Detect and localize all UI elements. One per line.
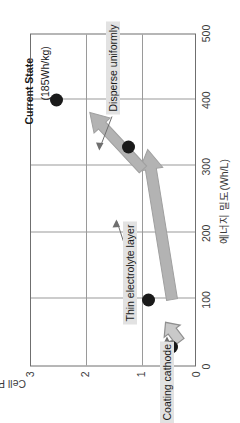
annotation-disperse-uniformly: Disperse uniformly [106,21,120,114]
gridline-y-2 [86,34,87,365]
xtick-100: 100 [200,291,212,309]
gridline-y-1 [142,34,143,365]
annotation-thin-electrolyte-layer: Thin electrolyte layer [123,221,137,324]
annotation-current-state: Current State [22,54,36,127]
x-axis-title: 에너지 밀도(Wh/L) [216,159,231,243]
annotation-coating-cathode: Coating cathode [160,341,174,423]
xtick-200: 200 [200,224,212,242]
xtick-500: 500 [200,24,212,42]
ytick-0: 0 [190,371,202,381]
gridline-x-300 [31,164,195,165]
gridline-x-100 [31,297,195,298]
ytick-1: 1 [135,371,147,381]
annotation-current-state-value: (185Wh/kg) [38,43,52,103]
y-axis-title: Cell Power Density (kW/L) [0,377,26,389]
xtick-400: 400 [200,91,212,109]
datapoint-thin-electrolyte [122,140,135,153]
xtick-300: 300 [200,157,212,175]
gridline-x-200 [31,231,195,232]
ytick-2: 2 [79,371,91,381]
xtick-0: 0 [200,363,212,369]
